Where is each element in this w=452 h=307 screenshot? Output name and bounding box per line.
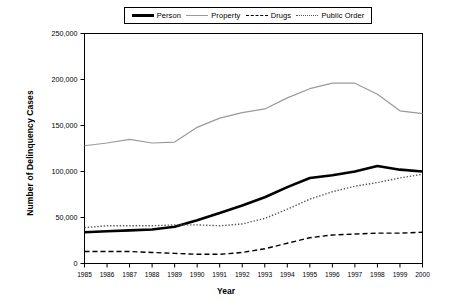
plot-area: 050,000100,000150,000200,000250,000 1985… [0, 0, 452, 307]
x-axis-ticks: 1985198619871988198919901991199219931994… [77, 264, 430, 278]
x-tick-label: 1993 [257, 271, 272, 278]
y-tick-label: 200,000 [52, 75, 78, 84]
x-tick-label: 1985 [77, 271, 92, 278]
x-tick-label: 1991 [212, 271, 227, 278]
y-axis-ticks: 050,000100,000150,000200,000250,000 [52, 29, 85, 268]
y-tick-label: 0 [74, 259, 78, 268]
x-tick-label: 1990 [190, 271, 205, 278]
y-tick-label: 150,000 [52, 121, 78, 130]
x-tick-label: 1992 [235, 271, 250, 278]
y-tick-label: 250,000 [52, 29, 78, 38]
x-tick-label: 1987 [122, 271, 137, 278]
x-tick-label: 1995 [302, 271, 317, 278]
series-lines [85, 83, 423, 254]
x-tick-label: 1996 [325, 271, 340, 278]
x-tick-label: 1988 [145, 271, 160, 278]
series-line-property [85, 83, 423, 146]
y-tick-label: 50,000 [56, 213, 78, 222]
x-tick-label: 1989 [167, 271, 182, 278]
delinquency-cases-line-chart: Person Property Drugs Public Order Numbe… [0, 0, 452, 307]
x-tick-label: 2000 [415, 271, 430, 278]
x-tick-label: 1986 [100, 271, 115, 278]
y-tick-label: 100,000 [52, 167, 78, 176]
x-tick-label: 1997 [348, 271, 363, 278]
series-line-drugs [85, 232, 423, 254]
x-tick-label: 1998 [370, 271, 385, 278]
series-line-person [85, 166, 423, 232]
x-tick-label: 1994 [280, 271, 295, 278]
x-tick-label: 1999 [393, 271, 408, 278]
